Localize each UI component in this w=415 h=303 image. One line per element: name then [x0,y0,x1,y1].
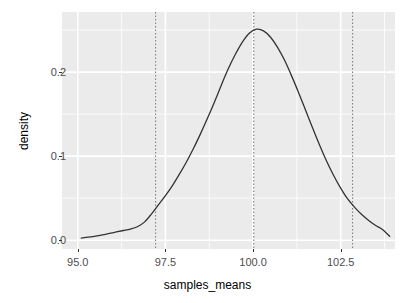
major-gridlines [62,12,395,249]
density-plot-figure: 95.097.5100.0102.5 0.00.10.2 samples_mea… [0,0,415,303]
y-tick-mark [59,72,62,73]
x-tick-mark [253,249,254,252]
x-tick-label-102.5: 102.5 [327,256,355,268]
x-tick-label-97.5: 97.5 [155,256,176,268]
y-axis-title: density [17,112,31,150]
density-line [81,29,389,238]
x-tick-label-100.0: 100.0 [239,256,267,268]
reference-lines [156,12,353,249]
x-tick-mark [341,249,342,252]
density-curve [81,29,389,238]
plot-canvas [62,12,395,249]
x-tick-mark [78,249,79,252]
x-axis-title: samples_means [0,278,415,292]
x-tick-mark [165,249,166,252]
y-tick-mark [59,156,62,157]
x-tick-label-95.0: 95.0 [67,256,88,268]
y-tick-mark [59,240,62,241]
minor-gridlines [62,12,395,249]
plot-panel [62,12,395,249]
